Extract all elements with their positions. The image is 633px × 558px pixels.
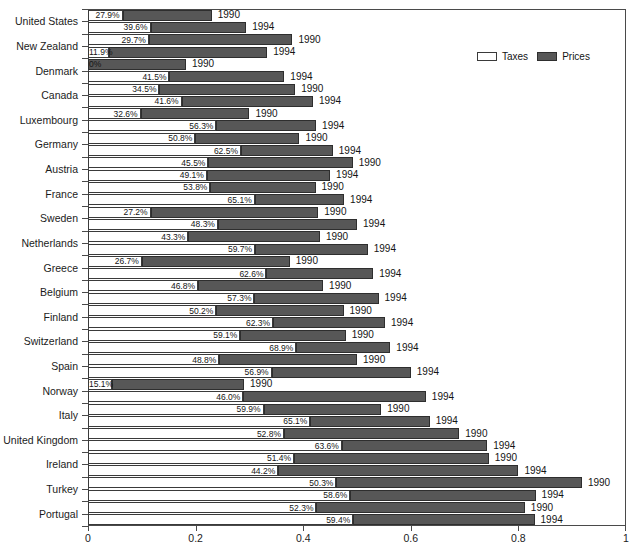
y-axis-tick — [82, 292, 88, 293]
bar-year-label: 1990 — [318, 207, 346, 217]
bar-year-label: 1990 — [249, 109, 277, 119]
category-label: Ireland — [46, 459, 78, 470]
bar-year-label: 1994 — [316, 121, 344, 131]
bar-segment-prices — [208, 157, 352, 168]
bar-value-label: 59.9% — [88, 405, 264, 414]
bar-value-label: 50.2% — [88, 306, 216, 315]
bar-row: 34.5%1990 — [88, 84, 626, 95]
bar-row: 62.3%1994 — [88, 317, 626, 328]
bar-value-label: 27.9% — [88, 11, 123, 20]
bar-value-label: 52.3% — [88, 503, 316, 512]
bar-segment-prices — [123, 10, 212, 21]
bar-value-label: 15.1% — [89, 380, 113, 389]
bar-segment-prices — [266, 268, 373, 279]
bar-segment-prices — [310, 416, 429, 427]
bar-segment-prices — [316, 502, 524, 513]
bar-row: 46.0%1994 — [88, 391, 626, 402]
bar-segment-prices — [342, 440, 487, 451]
bar-row: 46.8%1990 — [88, 280, 626, 291]
bar-row: 62.6%1994 — [88, 268, 626, 279]
bar-year-label: 1990 — [353, 158, 381, 168]
bar-segment-prices — [109, 47, 267, 58]
bar-value-label: 50.8% — [88, 134, 195, 143]
x-axis-tick — [303, 526, 304, 531]
bar-year-label: 1994 — [373, 269, 401, 279]
y-axis-tick — [82, 206, 88, 207]
x-axis-tick — [518, 526, 519, 531]
bar-row: 65.1%1994 — [88, 194, 626, 205]
legend-swatch-prices — [537, 52, 557, 61]
bar-year-label: 1994 — [487, 441, 515, 451]
bar-value-label: 44.2% — [88, 466, 278, 475]
legend-item-prices: Prices — [537, 51, 590, 62]
bar-value-label: 62.5% — [88, 146, 241, 155]
bar-value-label: 29.7% — [88, 35, 149, 44]
y-axis-tick — [82, 21, 88, 22]
bar-year-label: 1990 — [316, 182, 344, 192]
y-axis-tick — [82, 144, 88, 145]
bar-segment-prices — [112, 379, 244, 390]
legend-label-prices: Prices — [562, 51, 590, 62]
bar-year-label: 1990 — [346, 330, 374, 340]
bar-value-label: 43.3% — [88, 232, 188, 241]
y-axis-tick — [82, 280, 88, 281]
y-axis-tick — [82, 514, 88, 515]
bar-row: 50.8%1990 — [88, 133, 626, 144]
bar-value-label: 57.3% — [88, 294, 254, 303]
category-label: Germany — [35, 139, 78, 150]
bar-row: 45.5%1990 — [88, 157, 626, 168]
bar-value-label: 32.6% — [88, 109, 141, 118]
bar-row: 49.1%1994 — [88, 170, 626, 181]
bar-segment-prices — [149, 34, 293, 45]
x-axis-tick — [196, 526, 197, 531]
y-axis-tick — [82, 218, 88, 219]
bar-value-label: 48.3% — [88, 220, 218, 229]
bar-row: 56.9%1994 — [88, 367, 626, 378]
y-axis-tick — [82, 255, 88, 256]
bar-segment-prices — [195, 133, 299, 144]
bar-row: 26.7%1990 — [88, 256, 626, 267]
bar-year-label: 1990 — [290, 256, 318, 266]
bar-segment-prices — [254, 293, 378, 304]
category-label: Austria — [45, 164, 78, 175]
bar-year-label: 1994 — [368, 244, 396, 254]
category-label: United States — [15, 16, 78, 27]
x-axis-tick-label: 0.2 — [188, 533, 203, 544]
bar-row: 32.6%1990 — [88, 108, 626, 119]
bar-segment-prices — [296, 342, 390, 353]
legend-item-taxes: Taxes — [477, 51, 528, 62]
y-axis-tick — [82, 231, 88, 232]
category-label: Netherlands — [21, 237, 78, 248]
bar-row: 52.3%1990 — [88, 502, 626, 513]
bar-value-label: 49.1% — [88, 171, 207, 180]
bar-segment-prices — [169, 71, 284, 82]
bar-row: 62.5%1994 — [88, 145, 626, 156]
bar-segment-prices — [218, 219, 357, 230]
bar-value-label: 45.5% — [88, 158, 208, 167]
category-label: Switzerland — [24, 336, 78, 347]
bar-year-label: 1990 — [357, 355, 385, 365]
bar-row: 50.2%1990 — [88, 305, 626, 316]
y-axis-tick — [82, 403, 88, 404]
y-axis-tick — [82, 329, 88, 330]
bar-year-label: 1994 — [333, 146, 361, 156]
bar-year-label: 1994 — [379, 293, 407, 303]
y-axis-tick — [82, 83, 88, 84]
bar-segment-prices — [88, 59, 186, 70]
x-axis-tick-label: 0.8 — [511, 533, 526, 544]
bar-value-label: 34.5% — [88, 85, 159, 94]
x-axis-tick — [411, 526, 412, 531]
y-axis-tick — [82, 95, 88, 96]
bar-year-label: 1994 — [385, 318, 413, 328]
y-axis-tick — [82, 341, 88, 342]
bar-year-label: 1990 — [525, 503, 553, 513]
bar-row: 51.4%1990 — [88, 453, 626, 464]
category-label: Greece — [44, 262, 78, 273]
y-axis-tick — [82, 501, 88, 502]
bar-segment-prices — [151, 207, 319, 218]
bar-year-label: 1994 — [284, 72, 312, 82]
x-axis-tick-label: 0.4 — [296, 533, 311, 544]
bar-row: 58.6%1994 — [88, 490, 626, 501]
bar-value-label: 59.1% — [88, 331, 240, 340]
bar-row: 57.3%1994 — [88, 293, 626, 304]
